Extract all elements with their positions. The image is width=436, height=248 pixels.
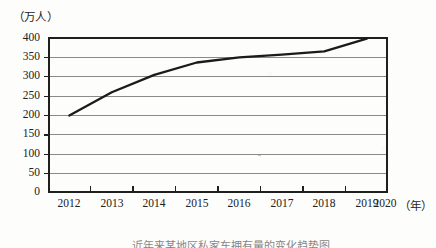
- x-tick-2017: 2017: [271, 197, 294, 209]
- x-tick-2015: 2015: [186, 197, 209, 209]
- x-tick-2014: 2014: [143, 197, 166, 209]
- x-tick-2020: 2020: [374, 197, 397, 209]
- gridlines: [48, 57, 388, 173]
- x-tick-2018: 2018: [313, 197, 336, 209]
- x-tick-2012: 2012: [58, 197, 81, 209]
- plot-area: [0, 0, 436, 248]
- scan-speck: [258, 155, 261, 156]
- x-tick-2016: 2016: [228, 197, 251, 209]
- line-chart-figure: （万人） 400 350 300 250 200 150 100 50 0: [0, 0, 436, 248]
- x-axis-unit-label: （年）: [399, 197, 432, 213]
- x-tick-2013: 2013: [101, 197, 124, 209]
- figure-caption: 近年来某地区私家车拥有量的变化趋势图: [132, 240, 330, 248]
